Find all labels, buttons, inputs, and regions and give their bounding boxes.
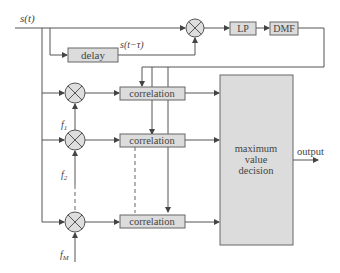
input-signal-label: s(t): [20, 12, 35, 25]
delayed-signal-label: s(t−τ): [120, 39, 144, 51]
lowpass-label: LP: [237, 23, 249, 34]
decision-label-line2: value: [245, 154, 268, 165]
f2-label: f2: [61, 169, 68, 182]
decision-label-line1: maximum: [235, 143, 278, 154]
block-diagram: s(t) delay s(t−τ) LP DMF correlation f1: [0, 0, 340, 273]
delay-branch-line: [50, 28, 67, 55]
multiplier-1-icon: [65, 83, 85, 103]
multiplier-M-icon: [65, 212, 85, 232]
correlation-label-2: correlation: [129, 135, 175, 146]
decision-label-line3: decision: [239, 165, 275, 176]
fM-label: fM: [60, 249, 70, 262]
correlation-label-M: correlation: [129, 216, 175, 227]
output-label: output: [297, 146, 324, 157]
correlation-label-1: correlation: [129, 88, 175, 99]
delay-label: delay: [81, 49, 105, 61]
f1-label: f1: [61, 119, 67, 132]
multiplier-2-icon: [65, 130, 85, 150]
top-multiplier-icon: [186, 19, 204, 37]
dmf-label: DMF: [273, 23, 295, 34]
